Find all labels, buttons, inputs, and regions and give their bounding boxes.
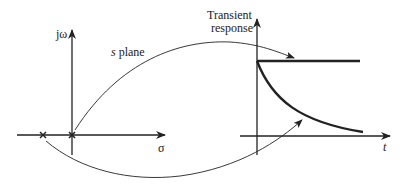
response-title-line2: response	[211, 21, 253, 35]
s-plane: jω σ s plane	[17, 27, 165, 155]
s-plane-label: s plane	[111, 45, 145, 59]
transient-response-plot: Transient response t	[207, 8, 390, 155]
arrow-origin-pole-to-step	[75, 42, 294, 130]
time-axis-label: t	[383, 140, 387, 154]
jw-axis-label: jω	[55, 27, 67, 41]
decaying-response-curve	[257, 61, 363, 132]
arrow-negative-pole-to-decay	[46, 120, 302, 178]
sigma-axis-label: σ	[158, 141, 165, 155]
s-plane-to-transient-diagram: jω σ s plane Transient response t	[0, 0, 407, 188]
response-title-line1: Transient	[207, 8, 253, 22]
